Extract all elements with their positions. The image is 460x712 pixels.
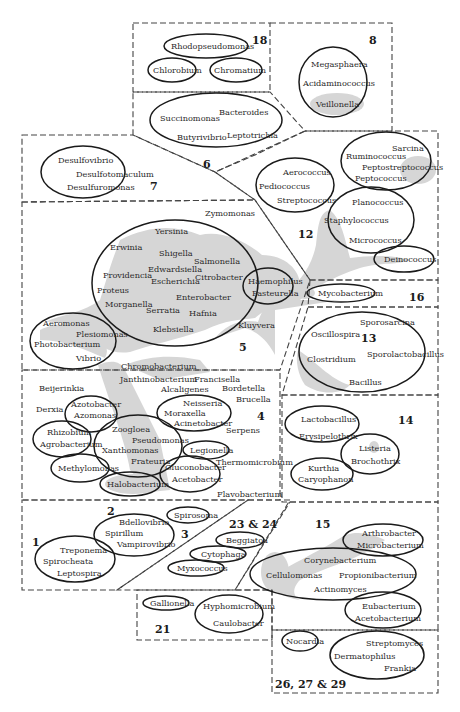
genus-lactobacillus: Lactobacillus <box>301 414 356 424</box>
genus-serratia: Serratia <box>146 305 180 315</box>
genus-leptospira: Leptospira <box>57 568 102 578</box>
genus-desulfotomaculum: Desulfotomaculum <box>76 169 154 179</box>
genus-chromobacterium: Chromobacterium <box>121 361 197 371</box>
genus-hyphomicrobium: Hyphomicrobium <box>203 601 275 611</box>
genus-azotobacter: Azotobacter <box>70 399 121 409</box>
genus-listeria: Listeria <box>359 443 391 453</box>
group-number-7: 7 <box>150 180 158 193</box>
genus-pasteurella: Pasteurella <box>252 288 299 298</box>
genus-photobacterium: Photobacterium <box>34 339 101 349</box>
genus-pseudomonas: Pseudomonas <box>132 435 189 445</box>
genus-sporosarcina: Sporosarcina <box>360 317 415 327</box>
genus-bacteroides: Bacteroides <box>219 107 268 117</box>
genus-streptomyces: Streptomyces <box>366 638 423 648</box>
genus-desulfuromonas: Desulfuromonas <box>67 182 135 192</box>
genus-kurthia: Kurthia <box>308 463 339 473</box>
genus-aeromonas: Aeromonas <box>42 318 90 328</box>
group-number-2: 2 <box>107 505 115 518</box>
genus-rhodopseudomonas: Rhodopseudomonas <box>171 41 254 51</box>
group-number-13: 13 <box>361 332 376 345</box>
genus-propionibacterium: Propionibacterium <box>339 570 417 580</box>
genus-bordetella: Bordetella <box>222 383 265 393</box>
genus-micrococcus: Micrococcus <box>349 235 402 245</box>
genus-zymomonas: Zymomonas <box>205 208 255 218</box>
genus-corynebacterium: Corynebacterium <box>304 555 377 565</box>
genus-acetobacter: Acetobacter <box>171 474 222 484</box>
genus-arthrobacter: Arthrobacter <box>361 528 416 538</box>
genus-azomonas: Azomonas <box>73 410 116 420</box>
genus-acidaminococcus: Acidaminococcus <box>302 78 375 88</box>
genus-nocardia: Nocardia <box>286 636 324 646</box>
genus-erwinia: Erwinia <box>110 242 142 252</box>
group-number-21: 21 <box>155 623 170 636</box>
genus-acetobacterium: Acetobacterium <box>354 613 421 623</box>
genus-megasphaera: Megasphaera <box>311 59 368 69</box>
genus-legionella: Legionella <box>190 445 233 455</box>
group-number-23-24: 23 & 24 <box>229 518 278 531</box>
genus-gallionella: Gallionella <box>150 598 195 608</box>
genus-chromatium: Chromatium <box>214 65 266 75</box>
group-number-15: 15 <box>315 518 330 531</box>
genus-bacillus: Bacillus <box>349 377 382 387</box>
genus-myxococcus: Myxococcus <box>177 563 228 573</box>
group-number-5: 5 <box>239 341 247 354</box>
group-number-4: 4 <box>257 410 265 423</box>
genus-thermomicrobium: Thermomicrobium <box>216 457 293 467</box>
genus-clostridium: Clostridium <box>307 354 356 364</box>
genus-bdellovibrio: Bdellovibrio <box>119 517 169 527</box>
genus-aerococcus: Aerococcus <box>282 167 331 177</box>
genus-alcaligenes: Alcaligenes <box>160 384 209 394</box>
genus-escherichia: Escherichia <box>151 276 200 286</box>
genus-xanthomonas: Xanthomonas <box>102 445 159 455</box>
genus-agrobacterium: Agrobacterium <box>39 439 103 449</box>
group-number-1: 1 <box>32 536 40 549</box>
genus-haemophilus: Haemophilus <box>248 276 303 286</box>
group-number-18: 18 <box>252 34 268 47</box>
genus-butyrivibrio: Butyrivibrio <box>177 132 227 142</box>
group-number-12: 12 <box>298 228 313 241</box>
genus-mycobacterium: Mycobacterium <box>318 288 383 298</box>
genus-chlorobium: Chlorobium <box>153 65 202 75</box>
group-number-14: 14 <box>398 414 414 427</box>
genus-rhizobium: Rhizobium <box>47 427 91 437</box>
genus-flavobacterium: Flavobacterium <box>217 489 282 499</box>
genus-streptococcus: Streptococcus <box>277 195 336 205</box>
genus-proteus: Proteus <box>97 285 129 295</box>
genus-vibrio: Vibrio <box>75 353 101 363</box>
genus-zoogloea: Zoogloea <box>112 424 150 434</box>
genus-spirosoma: Spirosoma <box>174 510 218 520</box>
genus-halobacterium: Halobacterium <box>107 479 169 489</box>
genus-acinetobacter: Acinetobacter <box>173 418 232 428</box>
genus-eubacterium: Eubacterium <box>362 601 416 611</box>
genus-peptostreptococcus: Peptostreptococcus <box>362 162 443 172</box>
genus-shigella: Shigella <box>159 248 193 258</box>
genus-veillonella: Veillonella <box>315 99 359 109</box>
genus-caryophanon: Caryophanon <box>298 474 354 484</box>
genus-citrobacter: Citrobacter <box>195 272 243 282</box>
genus-cellulomonas: Cellulomonas <box>266 570 322 580</box>
genus-leptotrichia: Leptotrichia <box>227 130 278 140</box>
genus-spirillum: Spirillum <box>105 528 144 538</box>
genus-caulobacter: Caulobacter <box>213 618 264 628</box>
genus-klebsiella: Klebsiella <box>153 324 194 334</box>
genus-pediococcus: Pediococcus <box>259 181 310 191</box>
genus-desulfovibrio: Desulfovibrio <box>58 155 113 165</box>
genus-beijerinkia: Beijerinkia <box>39 383 84 393</box>
genus-ruminococcus: Ruminococcus <box>346 151 406 161</box>
group-number-8: 8 <box>369 34 377 47</box>
genus-serpens: Serpens <box>226 425 260 435</box>
genus-planococcus: Planococcus <box>352 197 403 207</box>
group-number-26-27-29: 26, 27 & 29 <box>275 678 346 691</box>
genus-oscillospira: Oscillospira <box>311 329 360 339</box>
bacteria-relationship-diagram: 18 8 6 7 12 5 16 13 4 14 1 2 3 23 & 24 1… <box>0 0 460 712</box>
genus-hafnia: Hafnia <box>189 308 217 318</box>
genus-deinococcus: Deinococcus <box>384 254 436 264</box>
genus-spirochaeta: Spirocheata <box>43 556 93 566</box>
genus-yersinia: Yersinia <box>154 226 188 236</box>
genus-methylomonas: Methylomonas <box>58 463 119 473</box>
genus-sporolactobacillus: Sporolactobacillus <box>367 349 444 359</box>
genus-derxia: Derxia <box>36 404 64 414</box>
genus-brochothrix: Brochothrix <box>351 456 401 466</box>
genus-treponema: Treponema <box>60 545 107 555</box>
group-number-16: 16 <box>409 291 425 304</box>
